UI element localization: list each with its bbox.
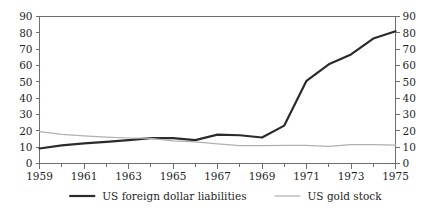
line-chart: 0102030405060708090 0102030405060708090 … [0,0,445,212]
x-axis-tick-label: 1973 [338,170,365,182]
y-axis-left-tick-label: 50 [19,76,32,88]
y-axis-right-tick-label: 10 [403,141,416,153]
y-axis-left-tick-label: 0 [26,157,33,169]
x-axis-tick-label: 1965 [160,170,187,182]
y-axis-right-tick-label: 50 [403,76,416,88]
x-axis-labels: 195919611963196519671969197119731975 [26,170,409,182]
y-axis-left-tick-label: 40 [19,92,32,104]
y-axis-right-tick-label: 80 [403,27,416,39]
y-axis-left-tick-label: 20 [19,125,32,137]
x-axis-tick-label: 1969 [249,170,276,182]
y-axis-right-tick-label: 0 [403,157,410,169]
x-axis-tick-label: 1959 [26,170,53,182]
y-axis-left-labels: 0102030405060708090 [19,10,32,169]
y-axis-right-tick-label: 70 [403,43,416,55]
y-axis-right-tick-label: 30 [403,108,416,120]
chart-legend: US foreign dollar liabilitiesUS gold sto… [69,190,382,202]
legend-label: US foreign dollar liabilities [102,190,246,202]
y-axis-left-tick-label: 90 [19,10,32,22]
x-axis-tick-label: 1971 [293,170,320,182]
y-axis-right-tick-label: 60 [403,59,416,71]
chart-series [40,31,396,148]
y-axis-left-tick-label: 30 [19,108,32,120]
chart-container: 0102030405060708090 0102030405060708090 … [0,0,445,212]
x-axis-tick-label: 1967 [204,170,231,182]
x-axis-tick-label: 1963 [115,170,142,182]
y-axis-left-tick-label: 10 [19,141,32,153]
y-axis-right-tick-label: 20 [403,125,416,137]
x-axis-tick-label: 1975 [382,170,409,182]
y-axis-left-tick-label: 80 [19,27,32,39]
legend-label: US gold stock [308,190,383,202]
x-axis-tick-label: 1961 [71,170,98,182]
y-axis-left-tick-label: 60 [19,59,32,71]
y-axis-right-tick-label: 90 [403,10,416,22]
series-line [40,31,396,148]
chart-axes [36,17,400,169]
y-axis-right-labels: 0102030405060708090 [403,10,416,169]
y-axis-left-tick-label: 70 [19,43,32,55]
y-axis-right-tick-label: 40 [403,92,416,104]
